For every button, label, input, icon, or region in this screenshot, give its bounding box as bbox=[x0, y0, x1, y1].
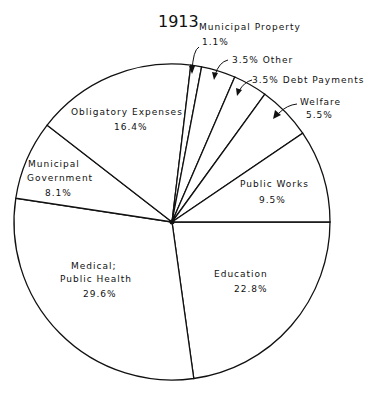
pie-center-dot bbox=[170, 220, 175, 225]
debt-payments-label: 3.5% Debt Payments bbox=[252, 74, 364, 87]
public-works-label: Public Works bbox=[240, 178, 309, 191]
welfare-pct: 5.5% bbox=[306, 109, 333, 122]
medical-label-2: Public Health bbox=[60, 273, 132, 286]
municipal-government-label-2: Government bbox=[27, 172, 93, 185]
other-label: 3.5% Other bbox=[232, 54, 293, 67]
pie-chart bbox=[0, 0, 377, 400]
welfare-label: Welfare bbox=[300, 96, 341, 109]
chart-title: 1913 bbox=[158, 12, 199, 31]
municipal-property-label: Municipal Property bbox=[199, 21, 301, 34]
obligatory-expenses-pct: 16.4% bbox=[114, 121, 148, 134]
pie-slice-education bbox=[172, 222, 330, 378]
obligatory-expenses-label: Obligatory Expenses bbox=[71, 106, 183, 119]
education-pct: 22.8% bbox=[234, 283, 268, 296]
municipal-government-pct: 8.1% bbox=[45, 187, 72, 200]
municipal-government-label-1: Municipal bbox=[28, 158, 80, 171]
public-works-pct: 9.5% bbox=[259, 194, 286, 207]
municipal-property-pct: 1.1% bbox=[202, 36, 229, 49]
medical-label-1: Medical; bbox=[71, 260, 117, 273]
education-label: Education bbox=[214, 268, 268, 281]
medical-pct: 29.6% bbox=[83, 288, 117, 301]
